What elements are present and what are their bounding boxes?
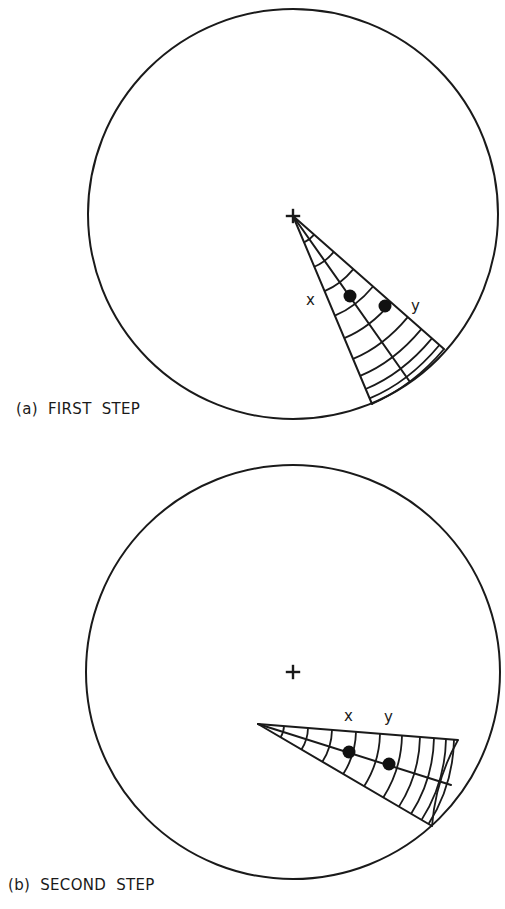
sector-ray — [258, 724, 458, 740]
sector-ray — [258, 724, 432, 826]
point-x-dot-icon — [344, 290, 357, 303]
point-y-dot-icon — [383, 758, 396, 771]
point-y-label: y — [384, 708, 393, 726]
center-cross-icon — [287, 666, 299, 678]
point-x-label: x — [344, 707, 353, 725]
caption-second-step: (b) SECOND STEP — [8, 876, 155, 894]
panel-second-step: xy — [86, 465, 500, 879]
point-x-label: x — [306, 291, 315, 309]
sector-grid — [258, 724, 458, 826]
sector-cross-arc — [360, 329, 421, 376]
point-x-dot-icon — [343, 746, 356, 759]
sector-cross-arc — [353, 317, 408, 359]
panel-first-step: xy — [88, 9, 498, 419]
point-y-label: y — [411, 297, 420, 315]
figure-canvas: xy xy — [0, 0, 505, 909]
sector-cross-arc — [304, 235, 314, 243]
point-y-dot-icon — [379, 300, 392, 313]
sector-cross-arc — [370, 345, 440, 398]
sector-grid — [293, 216, 444, 404]
caption-first-step: (a) FIRST STEP — [16, 400, 140, 418]
